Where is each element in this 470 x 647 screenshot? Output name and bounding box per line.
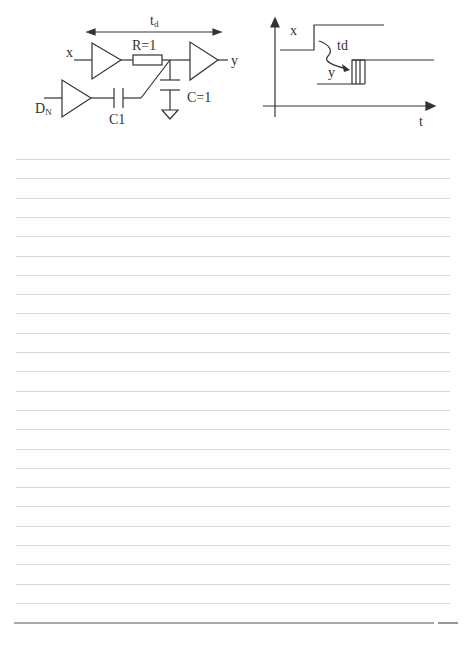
ruled-paper: [0, 0, 470, 647]
